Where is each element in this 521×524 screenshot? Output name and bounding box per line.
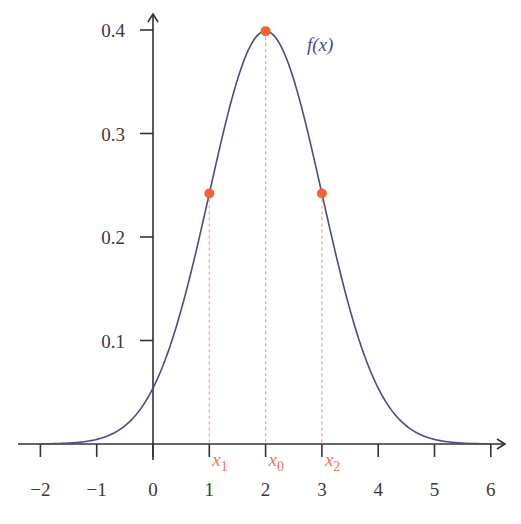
x-tick-label: 5 xyxy=(430,479,440,500)
point-labels: x1x0x2 xyxy=(211,449,340,474)
point-label-x2: x2 xyxy=(324,449,340,474)
point-x2 xyxy=(317,189,327,199)
x-tick-label: 6 xyxy=(486,479,496,500)
x-tick-label: 1 xyxy=(205,479,215,500)
y-tick-label: 0.1 xyxy=(101,331,125,352)
dashed-guide-lines xyxy=(209,31,322,444)
y-tick-label: 0.2 xyxy=(101,227,125,248)
y-tick-label: 0.4 xyxy=(101,20,125,41)
curve-label: f(x) xyxy=(307,34,333,56)
y-ticks: 0.10.20.30.4 xyxy=(101,20,153,352)
x-tick-label: 4 xyxy=(373,479,383,500)
x-tick-label: 2 xyxy=(261,479,271,500)
x-tick-label: 3 xyxy=(317,479,327,500)
point-x0 xyxy=(261,26,271,36)
axes xyxy=(18,14,505,460)
y-tick-label: 0.3 xyxy=(101,124,125,145)
x-tick-label: 0 xyxy=(148,479,158,500)
chart: −2−10123456 0.10.20.30.4 x1x0x2 f(x) xyxy=(0,0,521,524)
x-tick-label: −1 xyxy=(87,479,107,500)
x-tick-label: −2 xyxy=(30,479,50,500)
point-label-x1: x1 xyxy=(211,449,227,474)
point-x1 xyxy=(204,189,214,199)
x-ticks: −2−10123456 xyxy=(30,444,495,500)
point-label-x0: x0 xyxy=(268,449,284,474)
